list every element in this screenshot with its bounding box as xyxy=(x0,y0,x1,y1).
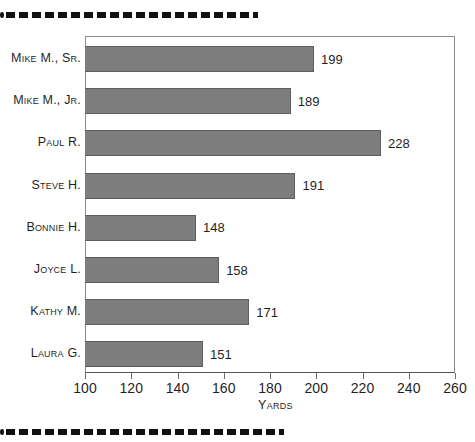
rule-dot-icon xyxy=(0,429,4,435)
bar xyxy=(85,257,219,283)
x-axis-tick xyxy=(363,373,364,379)
x-axis-tick xyxy=(316,373,317,379)
x-axis-tick xyxy=(224,373,225,379)
bar xyxy=(85,215,196,241)
bar-value-label: 189 xyxy=(298,95,320,108)
x-axis-tick-label: 160 xyxy=(212,380,235,396)
bar-value-label: 148 xyxy=(203,221,225,234)
x-axis-tick-label: 240 xyxy=(397,380,420,396)
x-axis-tick-label: 220 xyxy=(351,380,374,396)
bar-value-label: 151 xyxy=(210,348,232,361)
x-axis-tick xyxy=(85,373,86,379)
bar-row: 191 xyxy=(85,173,324,199)
bar-value-label: 228 xyxy=(388,137,410,150)
bar xyxy=(85,46,314,72)
top-decorative-rule xyxy=(0,11,258,18)
bar-row: 189 xyxy=(85,88,320,114)
category-axis-labels: Mike M., Sr.Mike M., Jr.Paul R.Steve H.B… xyxy=(0,36,81,373)
bar xyxy=(85,130,381,156)
category-label: Steve H. xyxy=(1,178,81,192)
x-axis-tick-label: 200 xyxy=(305,380,328,396)
category-label: Mike M., Sr. xyxy=(1,51,81,65)
category-label: Kathy M. xyxy=(1,304,81,318)
x-axis-tick-label: 100 xyxy=(73,380,96,396)
rule-dash-icon xyxy=(6,12,258,18)
bar xyxy=(85,173,295,199)
rule-dash-icon xyxy=(6,429,284,435)
x-axis-tick-label: 140 xyxy=(166,380,189,396)
bar-value-label: 191 xyxy=(302,179,324,192)
bar-value-label: 171 xyxy=(256,306,278,319)
bar-value-label: 199 xyxy=(321,53,343,66)
bar-row: 228 xyxy=(85,130,410,156)
bar xyxy=(85,341,203,367)
x-axis-title: Yards xyxy=(0,398,475,412)
bar-row: 151 xyxy=(85,341,232,367)
category-label: Mike M., Jr. xyxy=(1,93,81,107)
category-label: Laura G. xyxy=(1,346,81,360)
bottom-decorative-rule xyxy=(0,428,284,435)
x-axis-tick xyxy=(409,373,410,379)
category-label: Paul R. xyxy=(1,135,81,149)
x-axis-tick xyxy=(455,373,456,379)
bar-series: 199189228191148158171151 xyxy=(85,36,455,373)
bar-value-label: 158 xyxy=(226,264,248,277)
x-axis-tick xyxy=(178,373,179,379)
category-label: Joyce L. xyxy=(1,262,81,276)
x-axis-tick xyxy=(270,373,271,379)
x-axis-tick-label: 260 xyxy=(443,380,466,396)
x-axis-title-label: Yards xyxy=(258,398,293,412)
bar-row: 158 xyxy=(85,257,248,283)
bar-row: 148 xyxy=(85,215,225,241)
rule-dot-icon xyxy=(0,12,4,18)
bar xyxy=(85,88,291,114)
category-label: Bonnie H. xyxy=(1,220,81,234)
x-axis-tick-label: 120 xyxy=(120,380,143,396)
bar-row: 171 xyxy=(85,299,278,325)
x-axis-tick-label: 180 xyxy=(258,380,281,396)
bar xyxy=(85,299,249,325)
x-axis-tick xyxy=(131,373,132,379)
bar-row: 199 xyxy=(85,46,343,72)
